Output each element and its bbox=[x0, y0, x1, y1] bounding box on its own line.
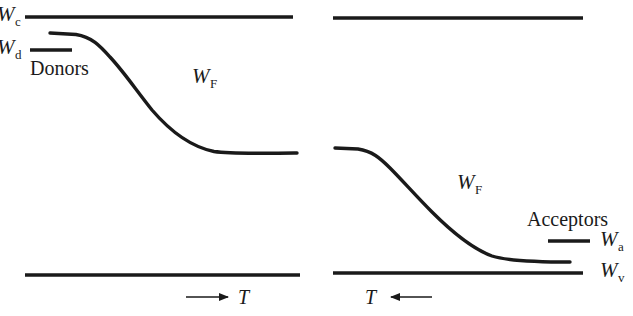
band-diagram-canvas bbox=[0, 0, 633, 316]
left-temperature-axis-label: T bbox=[238, 287, 249, 307]
right-panel-group bbox=[333, 18, 590, 297]
conduction-band-label: Wc bbox=[0, 4, 21, 28]
donor-level-label: Wd bbox=[0, 37, 22, 61]
left-fermi-level-curve bbox=[50, 33, 297, 153]
acceptor-level-label: Wa bbox=[600, 229, 624, 253]
right-temperature-axis-label: T bbox=[365, 287, 376, 307]
right-fermi-level-label: WF bbox=[457, 172, 482, 196]
acceptors-label: Acceptors bbox=[527, 209, 608, 229]
valence-band-subscript: v bbox=[618, 270, 625, 285]
conduction-band-subscript: c bbox=[15, 14, 21, 29]
left-fermi-level-label: WF bbox=[192, 66, 217, 90]
band-diagram-figure: Wc Wd Donors WF T WF Acceptors Wa Wv T bbox=[0, 0, 633, 316]
right-fermi-level-curve bbox=[335, 148, 570, 262]
donor-level-subscript: d bbox=[15, 47, 22, 62]
acceptor-level-subscript: a bbox=[618, 239, 624, 254]
valence-band-label: Wv bbox=[600, 260, 625, 284]
right-fermi-subscript: F bbox=[475, 182, 482, 197]
donors-label: Donors bbox=[30, 58, 89, 78]
left-fermi-subscript: F bbox=[210, 76, 217, 91]
